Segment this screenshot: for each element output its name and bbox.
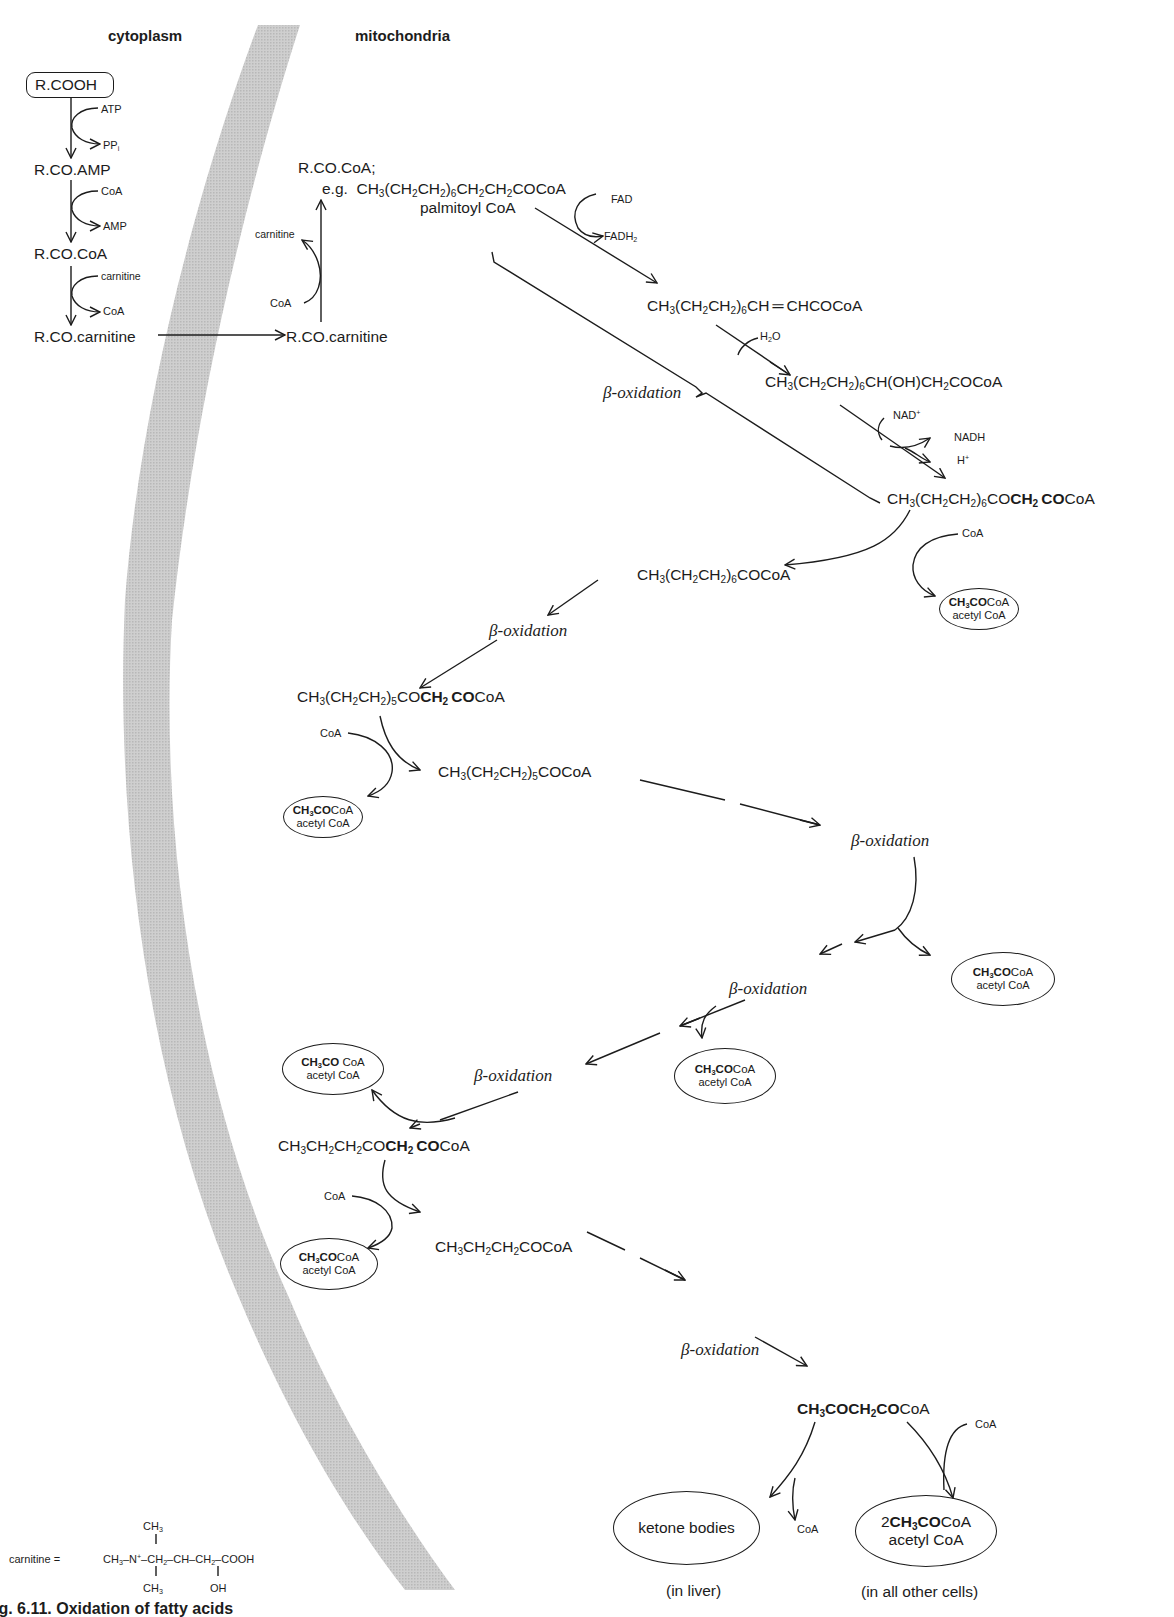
arrow-h [905,448,930,462]
acetyl-coa-ellipse-3: CH3COCoAacetyl CoA [951,952,1055,1006]
arrow-coa-amp [72,191,100,226]
carnitine-hydroxyl: OH [210,1583,227,1594]
coa-acetyl-final-label: CoA [975,1419,996,1430]
acetyl-coa-ellipse-1: CH3COCoAacetyl CoA [939,588,1019,630]
mitochondria-header: mitochondria [355,28,450,43]
arrow-c14keto-to-c12 [380,716,420,770]
coa-thiolysis-label-2: CoA [320,728,341,739]
arrow-nad [878,418,884,440]
arrow-beta4-to-acetyl [372,1090,455,1122]
coa-out-label: CoA [103,306,124,317]
arrow-nadh [890,438,930,448]
beta-oxidation-label-5: β-oxidation [681,1341,759,1358]
arrow-carnitine-coa [72,276,100,312]
c12-acyl-coa-label: CH3(CH2CH2)5COCoA [438,764,591,780]
arrow-to-beta4 [586,1033,660,1064]
nadh-label: NADH [954,432,985,443]
carnitine-structure-label: carnitine = [9,1554,60,1565]
arrow-to-acetyl-final [907,1422,953,1498]
beta-oxidation-label-1: β-oxidation [489,622,567,639]
arrow-coa-thiolysis-3 [352,1196,392,1248]
acyl-coa-cyto-label: R.CO.CoA [34,246,107,262]
arrow-beta1-to-c14keto [420,640,497,688]
arrow-c12-to-beta2 [640,780,820,825]
acetoacetyl-coa-label: CH3COCH2COCoA [797,1401,930,1417]
c14-keto-label: CH3(CH2CH2)5COCH2 COCoA [297,689,505,705]
arrow-c6keto-to-c4 [383,1160,420,1212]
arrow-ketone-coa [793,1478,795,1520]
carnitine-bottom-methyl: CH3 [143,1583,163,1594]
arrow-beta4-down [440,1092,518,1120]
arrow-to-ketone-bodies [770,1422,815,1497]
arrow-ketoacyl-to-c14 [785,510,910,565]
acetyl-location-label: (in all other cells) [861,1584,978,1600]
acyl-carnitine-mito-label: R.CO.carnitine [286,329,388,345]
arrow-coa-carnitine-mito [302,240,320,303]
acetyl-coa-ellipse-6: CH3COCoAacetyl CoA [280,1238,378,1290]
beta-oxidation-label-4: β-oxidation [474,1067,552,1084]
coa-in-label-1: CoA [101,186,122,197]
carnitine-in-label: carnitine [101,271,141,282]
ketoacyl-coa-label: CH3(CH2CH2)6COCH2 COCoA [887,491,1095,507]
coa-thiolysis-label-3: CoA [324,1191,345,1202]
hydroxyacyl-coa-label: CH3(CH2CH2)6CH(OH)CH2COCoA [765,374,1002,390]
acyl-coa-generic: R.CO.CoA; [298,160,376,176]
coa-thiolysis-label-1: CoA [962,528,983,539]
palmitoyl-formula: e.g. CH3(CH2CH2)6CH2CH2COCoA [322,181,566,197]
fadh2-label: FADH2 [604,231,637,242]
carnitine-out-label: carnitine [255,229,295,240]
arrow-fad-fadh2 [575,194,603,237]
figure-caption: ig. 6.11. Oxidation of fatty acids [0,1601,233,1617]
beta-oxidation-label-3: β-oxidation [729,980,807,997]
arrow-coa-thiolysis-2 [348,733,392,796]
ketone-coa-label: CoA [797,1524,818,1535]
coa-transport-label: CoA [270,298,291,309]
beta-oxidation-label-2: β-oxidation [851,832,929,849]
h2o-label: H2O [760,331,781,342]
acyl-carnitine-cyto-label: R.CO.carnitine [34,329,136,345]
beta-oxidation-bracket-label: β-oxidation [603,384,681,401]
acetyl-coa-ellipse-4: CH3COCoAacetyl CoA [674,1048,776,1104]
arrow-palmitoyl-to-enoyl [535,208,657,283]
c6-keto-label: CH3CH2CH2COCH2 COCoA [278,1138,470,1154]
ketone-bodies-ellipse: ketone bodies [613,1491,760,1565]
arrow-coa-thiolysis-1 [913,534,958,596]
arrow-atp-ppi [72,108,100,144]
h-plus-label: H+ [957,455,969,466]
acetyl-coa-ellipse-2: CH3COCoAacetyl CoA [283,796,363,838]
arrow-beta2-to-beta3 [855,930,895,942]
arrow-beta2-to-acetyl [898,928,930,955]
palmitoyl-name: palmitoyl CoA [420,200,516,216]
fatty-acid-label: R.COOH [35,77,97,93]
arrow-beta2-split [895,857,916,930]
arrow-beta3-to-acetyl [702,1006,716,1038]
fad-label: FAD [611,194,632,205]
c4-acyl-coa-label: CH3CH2CH2COCoA [435,1239,572,1255]
ketone-location-label: (in liver) [666,1583,721,1599]
acyl-amp-label: R.CO.AMP [34,162,111,178]
amp-label: AMP [103,221,127,232]
carnitine-main-chain: CH3–N+–CH2–CH–CH2–COOH [103,1554,254,1565]
atp-label: ATP [101,104,122,115]
carnitine-top-methyl: CH3 [143,1521,163,1532]
c14-acyl-coa-label: CH3(CH2CH2)6COCoA [637,567,790,583]
arrow-beta5-to-acetoacetyl [755,1337,807,1366]
acetyl-coa-ellipse-5: CH3CO CoAacetyl CoA [282,1043,384,1095]
acetyl-coa-final-ellipse: 2CH3COCoA acetyl CoA [855,1495,997,1567]
ppi-label: PPi [103,140,119,151]
arrow-c14-to-beta1 [548,580,598,615]
enoyl-coa-label: CH3(CH2CH2)6CH ═ CHCOCoA [647,298,862,314]
cytoplasm-header: cytoplasm [108,28,182,43]
nad-label: NAD+ [893,410,920,421]
